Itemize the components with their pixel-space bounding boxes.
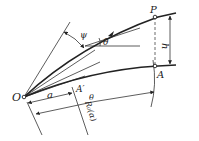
label-a-point: A [156, 69, 164, 80]
label-h: h [160, 43, 171, 49]
point-o [22, 95, 26, 99]
point-a [153, 64, 157, 68]
label-a-prime: A′ [75, 84, 85, 94]
label-a: a [47, 89, 53, 100]
label-theta-lower: θ [89, 93, 94, 102]
label-p: P [149, 4, 157, 15]
diagram-canvas: h ψ θ a R₀(α) O P A A′ θ [0, 0, 199, 141]
label-o: O [12, 91, 21, 104]
label-r0: R₀(α) [83, 99, 98, 123]
angle-theta-arc [99, 38, 100, 46]
label-theta-upper: θ [103, 37, 109, 47]
label-psi: ψ [80, 30, 88, 40]
a-prime-extension [72, 87, 88, 135]
curve-op [24, 13, 176, 97]
psi-reference-line [24, 22, 70, 97]
o-extension [27, 102, 42, 135]
point-p [153, 15, 157, 19]
diagram: h ψ θ a R₀(α) O P A A′ θ [0, 0, 199, 141]
